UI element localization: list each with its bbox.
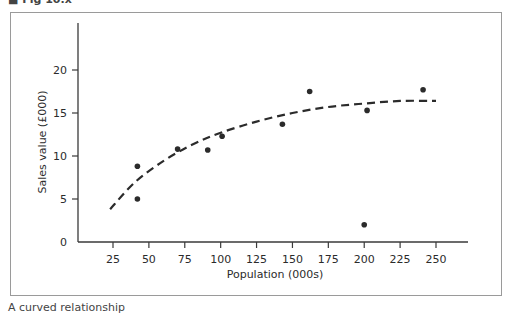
y-tick-label: 20 <box>53 64 67 77</box>
x-tick-label: 25 <box>106 253 120 266</box>
x-tick-label: 50 <box>142 253 156 266</box>
axes: 05101520255075100125150175200225250 <box>53 23 468 266</box>
data-point <box>420 87 426 93</box>
x-tick-label: 75 <box>178 253 192 266</box>
x-tick-label: 125 <box>246 253 267 266</box>
y-axis-title: Sales value (£000) <box>36 91 49 194</box>
data-point <box>175 146 181 152</box>
y-tick-label: 15 <box>53 107 67 120</box>
x-tick-label: 250 <box>426 253 447 266</box>
y-tick-label: 5 <box>60 193 67 206</box>
fitted-curve-path <box>110 101 436 210</box>
x-tick-label: 100 <box>210 253 231 266</box>
data-point <box>135 164 141 170</box>
data-point <box>307 89 313 95</box>
x-tick-label: 225 <box>390 253 411 266</box>
y-tick-label: 0 <box>60 236 67 249</box>
data-point <box>361 222 367 228</box>
data-point <box>364 108 370 114</box>
data-points <box>135 87 426 228</box>
x-tick-label: 150 <box>282 253 303 266</box>
x-axis-title: Population (000s) <box>227 268 324 281</box>
figure-caption-bottom: A curved relationship <box>8 301 125 314</box>
x-tick-label: 175 <box>318 253 339 266</box>
data-point <box>205 147 211 153</box>
fitted-curve <box>110 101 436 210</box>
y-tick-label: 10 <box>53 150 67 163</box>
x-tick-label: 200 <box>354 253 375 266</box>
data-point <box>135 196 141 202</box>
data-point <box>280 121 286 127</box>
data-point <box>219 133 225 139</box>
